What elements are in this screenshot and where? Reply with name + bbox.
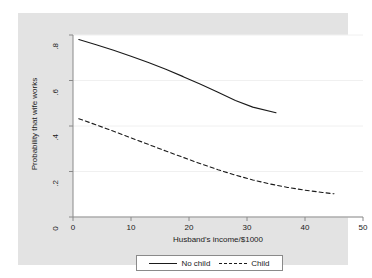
y-tick-label: .2 <box>51 171 60 195</box>
x-tick-label: 50 <box>351 223 372 232</box>
x-tick-label: 30 <box>235 223 259 232</box>
legend-entry-no-child: No child <box>149 259 210 268</box>
y-tick-label: .6 <box>51 80 60 104</box>
y-tick-label: 0 <box>51 217 60 241</box>
legend-key-dashed-line-icon <box>219 263 247 264</box>
y-tick-label: .4 <box>51 126 60 150</box>
legend-entry-child: Child <box>219 259 269 268</box>
x-tick-label: 10 <box>119 223 143 232</box>
graph-region: Probability that wife works Husband's in… <box>18 13 348 265</box>
legend-label-no-child: No child <box>181 259 210 268</box>
y-axis-title: Probability that wife works <box>30 39 40 209</box>
legend-label-child: Child <box>251 259 269 268</box>
chart-legend: No child Child <box>136 255 283 271</box>
x-tick-label: 0 <box>61 223 85 232</box>
x-tick-label: 40 <box>293 223 317 232</box>
x-tick-label: 20 <box>177 223 201 232</box>
y-tick-label: .8 <box>51 35 60 59</box>
x-axis-title: Husband's income/$1000 <box>73 235 363 244</box>
series-line-no-child <box>79 40 276 113</box>
legend-key-solid-line-icon <box>149 263 177 264</box>
series-line-child <box>79 119 334 194</box>
